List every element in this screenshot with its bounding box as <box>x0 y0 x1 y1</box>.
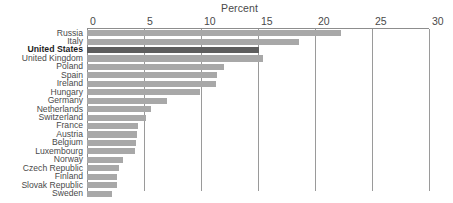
bar-switzerland <box>87 115 146 121</box>
bar-czech-republic <box>87 165 119 171</box>
x-tick-label-15: 15 <box>258 15 273 28</box>
bar-netherlands <box>87 106 151 112</box>
bar-poland <box>87 64 224 70</box>
bar-united-kingdom <box>87 55 263 61</box>
x-tick-label-20: 20 <box>315 15 330 28</box>
bar-finland <box>87 174 117 180</box>
x-tick-label-25: 25 <box>372 15 387 28</box>
bar-belgium <box>87 140 136 146</box>
x-tick-label-5: 5 <box>144 15 153 28</box>
bar-hungary <box>87 89 200 95</box>
bar-chart: Percent 051015202530 RussiaItalyUnited S… <box>0 0 453 203</box>
chart-title-text: Percent <box>221 2 258 14</box>
x-tick-label-10: 10 <box>201 15 216 28</box>
bar-luxembourg <box>87 148 135 154</box>
category-label-sweden: Sweden <box>0 189 83 198</box>
bar-norway <box>87 157 123 163</box>
bar-italy <box>87 39 299 45</box>
bar-ireland <box>87 81 216 87</box>
bar-row: Sweden <box>0 190 453 198</box>
x-tick-label-0: 0 <box>87 15 96 28</box>
bar-russia <box>87 30 341 36</box>
x-tick-label-30: 30 <box>429 15 444 28</box>
bar-spain <box>87 72 217 78</box>
bar-united-states <box>87 47 259 53</box>
x-axis-tick-labels: 051015202530 <box>0 15 453 28</box>
bar-austria <box>87 131 137 137</box>
bar-germany <box>87 98 167 104</box>
bar-rows: RussiaItalyUnited StatesUnited KingdomPo… <box>0 28 453 190</box>
bar-slovak-republic <box>87 182 117 188</box>
bar-france <box>87 123 138 129</box>
chart-title: Percent <box>0 2 453 14</box>
bar-sweden <box>87 191 112 197</box>
